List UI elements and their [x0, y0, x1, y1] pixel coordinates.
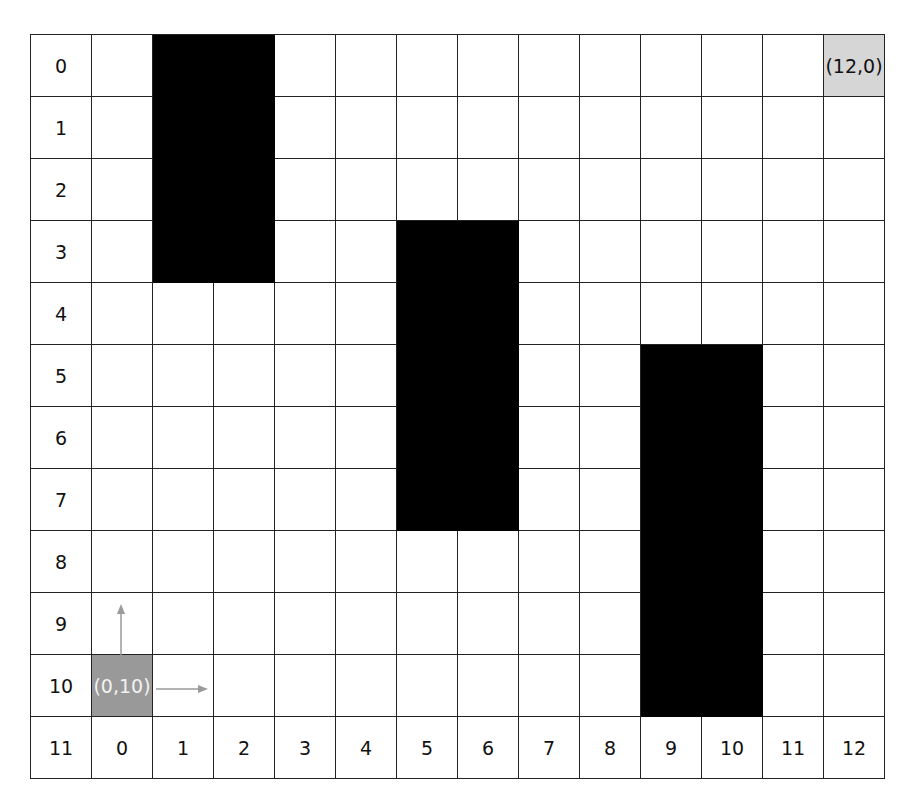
obstacle-cell — [458, 345, 519, 407]
grid-cell — [92, 97, 153, 159]
obstacle-cell — [641, 469, 702, 531]
row-label: 3 — [31, 221, 92, 283]
grid-cell — [580, 283, 641, 345]
obstacle-cell — [641, 407, 702, 469]
grid-cell — [702, 97, 763, 159]
grid-cell — [580, 97, 641, 159]
grid-cell — [92, 531, 153, 593]
grid-cell — [92, 469, 153, 531]
grid-cell — [519, 407, 580, 469]
grid-cell — [763, 345, 824, 407]
grid-cell — [92, 593, 153, 655]
grid-cell — [92, 407, 153, 469]
grid-cell — [275, 345, 336, 407]
grid-cell — [641, 221, 702, 283]
grid-cell — [275, 531, 336, 593]
grid-cell — [519, 159, 580, 221]
grid-cell — [580, 159, 641, 221]
grid-cell — [824, 159, 885, 221]
grid-cell — [763, 221, 824, 283]
grid-cell — [153, 345, 214, 407]
column-label: 7 — [519, 717, 580, 779]
row-label: 2 — [31, 159, 92, 221]
obstacle-cell — [153, 35, 214, 97]
obstacle-cell — [458, 469, 519, 531]
obstacle-cell — [214, 97, 275, 159]
grid-cell — [580, 35, 641, 97]
grid-cell — [458, 531, 519, 593]
grid-cell — [519, 531, 580, 593]
grid-cell — [153, 283, 214, 345]
grid-cell — [580, 655, 641, 717]
grid-cell — [580, 469, 641, 531]
grid-cell — [275, 407, 336, 469]
grid-cell — [519, 655, 580, 717]
grid-cell — [824, 655, 885, 717]
grid-cell — [763, 159, 824, 221]
column-label: 2 — [214, 717, 275, 779]
grid-cell — [519, 35, 580, 97]
grid-cell — [763, 35, 824, 97]
grid-cell — [336, 35, 397, 97]
column-label: 4 — [336, 717, 397, 779]
obstacle-cell — [702, 469, 763, 531]
grid-cell — [153, 655, 214, 717]
row-label: 10 — [31, 655, 92, 717]
obstacle-cell — [397, 345, 458, 407]
grid-cell — [214, 593, 275, 655]
obstacle-cell — [702, 655, 763, 717]
grid-cell — [153, 593, 214, 655]
row-label: 8 — [31, 531, 92, 593]
grid-cell — [824, 221, 885, 283]
grid-cell — [275, 221, 336, 283]
grid-cell — [336, 159, 397, 221]
obstacle-cell — [153, 221, 214, 283]
column-label: 3 — [275, 717, 336, 779]
obstacle-cell — [397, 407, 458, 469]
grid-cell — [580, 407, 641, 469]
obstacle-cell — [153, 97, 214, 159]
grid-cell — [397, 97, 458, 159]
grid-cell — [824, 345, 885, 407]
grid-cell — [519, 283, 580, 345]
column-label: 1 — [153, 717, 214, 779]
grid-cell — [824, 469, 885, 531]
column-label: 11 — [763, 717, 824, 779]
grid-cell — [214, 345, 275, 407]
grid-cell — [458, 655, 519, 717]
obstacle-cell — [458, 283, 519, 345]
grid-cell — [824, 531, 885, 593]
grid-cell — [336, 345, 397, 407]
grid-cell — [275, 469, 336, 531]
row-label: 5 — [31, 345, 92, 407]
obstacle-cell — [702, 531, 763, 593]
grid-cell — [702, 35, 763, 97]
grid-cell — [275, 283, 336, 345]
row-label: 7 — [31, 469, 92, 531]
grid-cell — [336, 283, 397, 345]
obstacle-cell — [641, 655, 702, 717]
grid-cell — [702, 159, 763, 221]
grid-cell — [519, 221, 580, 283]
grid-cell — [214, 655, 275, 717]
grid-cell — [397, 531, 458, 593]
row-label: 6 — [31, 407, 92, 469]
grid-cell — [92, 159, 153, 221]
grid-cell — [519, 345, 580, 407]
grid-cell — [336, 531, 397, 593]
grid-cell — [336, 407, 397, 469]
obstacle-cell — [153, 159, 214, 221]
grid-cell — [763, 531, 824, 593]
column-label: 0 — [92, 717, 153, 779]
grid-cell — [275, 97, 336, 159]
obstacle-cell — [702, 407, 763, 469]
grid-cell — [641, 35, 702, 97]
grid-cell — [763, 655, 824, 717]
obstacle-cell — [641, 531, 702, 593]
grid-cell — [275, 159, 336, 221]
obstacle-cell — [397, 283, 458, 345]
grid-cell — [824, 97, 885, 159]
row-label: 1 — [31, 97, 92, 159]
grid-cell — [458, 97, 519, 159]
grid-cell — [336, 221, 397, 283]
